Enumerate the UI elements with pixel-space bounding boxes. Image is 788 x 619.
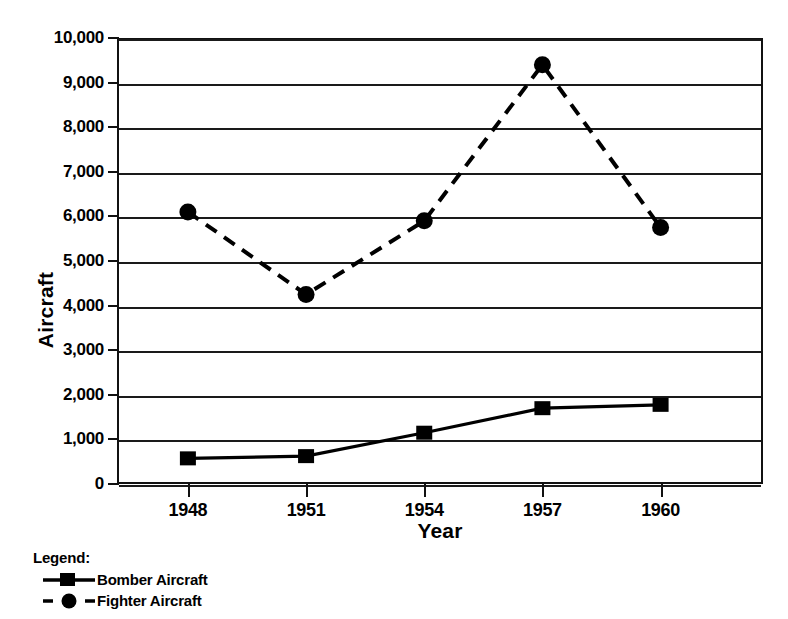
y-tick-mark	[108, 126, 119, 128]
y-tick-label: 6,000	[0, 206, 104, 226]
y-tick-label: 10,000	[0, 28, 104, 48]
square-marker-icon	[41, 570, 97, 590]
legend-item-fighter-aircraft: Fighter Aircraft	[41, 590, 333, 611]
x-tick-label: 1948	[168, 500, 207, 521]
x-tick-mark	[661, 484, 663, 497]
y-tick-mark	[108, 394, 119, 396]
x-tick-label: 1951	[287, 500, 326, 521]
y-tick-label: 0	[0, 474, 104, 494]
gridline	[119, 217, 761, 219]
y-tick-mark	[108, 215, 119, 217]
legend-item-bomber-aircraft: Bomber Aircraft	[41, 569, 333, 590]
gridline	[119, 84, 761, 86]
gridline	[119, 173, 761, 175]
chart-figure: 01,0002,0003,0004,0005,0006,0007,0008,00…	[0, 0, 788, 619]
x-axis-title: Year	[117, 519, 763, 543]
y-tick-mark	[108, 260, 119, 262]
gridline	[119, 485, 761, 487]
y-tick-mark	[108, 349, 119, 351]
gridline	[119, 351, 761, 353]
legend-heading: Legend:	[33, 549, 333, 566]
x-tick-label: 1957	[523, 500, 562, 521]
plot-area	[117, 38, 763, 484]
gridline	[119, 262, 761, 264]
y-tick-mark	[108, 37, 119, 39]
y-tick-label: 2,000	[0, 385, 104, 405]
gridline	[119, 307, 761, 309]
x-tick-mark	[424, 484, 426, 497]
legend-label-fighter-aircraft: Fighter Aircraft	[97, 592, 202, 609]
y-axis-title: Aircraft	[34, 271, 58, 347]
y-tick-mark	[108, 483, 119, 485]
y-tick-mark	[108, 438, 119, 440]
legend-label-bomber-aircraft: Bomber Aircraft	[97, 571, 208, 588]
legend: Legend: Bomber Aircraft Fighter Aircraft	[33, 549, 333, 611]
circle-marker-icon	[41, 591, 97, 611]
x-tick-label: 1954	[405, 500, 444, 521]
gridline	[119, 396, 761, 398]
gridline	[119, 128, 761, 130]
x-tick-mark	[542, 484, 544, 497]
y-tick-mark	[108, 82, 119, 84]
y-tick-label: 9,000	[0, 73, 104, 93]
x-tick-mark	[188, 484, 190, 497]
y-tick-label: 7,000	[0, 162, 104, 182]
y-tick-label: 8,000	[0, 117, 104, 137]
x-tick-mark	[306, 484, 308, 497]
gridline	[119, 39, 761, 41]
y-tick-mark	[108, 305, 119, 307]
y-tick-label: 5,000	[0, 251, 104, 271]
x-tick-label: 1960	[641, 500, 680, 521]
y-tick-mark	[108, 171, 119, 173]
y-tick-label: 1,000	[0, 429, 104, 449]
gridline	[119, 440, 761, 442]
